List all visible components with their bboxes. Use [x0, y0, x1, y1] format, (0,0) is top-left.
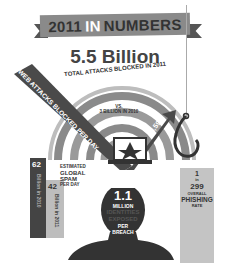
laptop-icon	[108, 136, 154, 168]
phishing-panel: 1 in 299 OVERALL PHISHING RATE	[180, 168, 214, 263]
title-year: 2011	[48, 17, 82, 35]
identities-label: IDENTITIES	[100, 209, 146, 215]
title-banner: 2011 IN NUMBERS	[40, 13, 190, 38]
identities-exposed: EXPOSED	[100, 216, 146, 222]
spam-2011-value: 42	[48, 182, 57, 191]
spam-bar-2010: 62 Billion in 2010	[30, 158, 46, 238]
phishing-rate: RATE	[180, 203, 214, 208]
title-in: IN	[85, 17, 101, 34]
comparison-2010: 3 BILLION IN 2010	[96, 109, 142, 114]
identities-value: 1.1	[100, 188, 146, 203]
phishing-value-bottom: 299	[180, 182, 214, 191]
spam-2010-caption: Billion in 2010	[36, 174, 42, 208]
title-numbers: NUMBERS	[104, 15, 182, 33]
spam-2010-value: 62	[32, 160, 41, 169]
phishing-label: PHISHING	[180, 196, 214, 203]
identities-breach: BREACH	[100, 229, 146, 235]
phishing-value-top: 1	[180, 170, 214, 177]
